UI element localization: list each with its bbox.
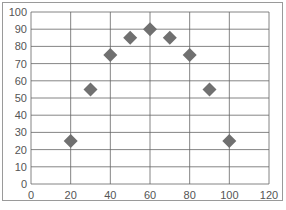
y-tick-label: 30 [15, 126, 27, 138]
y-tick-label: 90 [15, 23, 27, 35]
diamond-marker [103, 48, 117, 62]
diamond-marker [183, 48, 197, 62]
x-tick-label: 40 [104, 189, 116, 201]
diamond-marker [163, 31, 177, 45]
y-axis-tick-labels: 0102030405060708090100 [9, 6, 27, 190]
diamond-marker [143, 22, 157, 36]
gridlines [31, 12, 269, 184]
scatter-chart: 0102030405060708090100 020406080100120 [0, 0, 286, 210]
x-tick-label: 80 [184, 189, 196, 201]
diamond-marker [222, 134, 236, 148]
x-tick-label: 100 [220, 189, 238, 201]
y-tick-label: 100 [9, 6, 27, 18]
y-tick-label: 20 [15, 144, 27, 156]
y-tick-label: 70 [15, 58, 27, 70]
diamond-marker [203, 82, 217, 96]
x-tick-label: 60 [144, 189, 156, 201]
y-tick-label: 80 [15, 40, 27, 52]
x-tick-label: 120 [260, 189, 278, 201]
y-tick-label: 50 [15, 92, 27, 104]
y-tick-label: 0 [21, 178, 27, 190]
diamond-marker [64, 134, 78, 148]
x-tick-label: 0 [28, 189, 34, 201]
y-tick-label: 60 [15, 75, 27, 87]
x-axis-tick-labels: 020406080100120 [28, 189, 278, 201]
x-tick-label: 20 [65, 189, 77, 201]
y-tick-label: 40 [15, 109, 27, 121]
diamond-marker [84, 82, 98, 96]
y-tick-label: 10 [15, 161, 27, 173]
diamond-marker [123, 31, 137, 45]
